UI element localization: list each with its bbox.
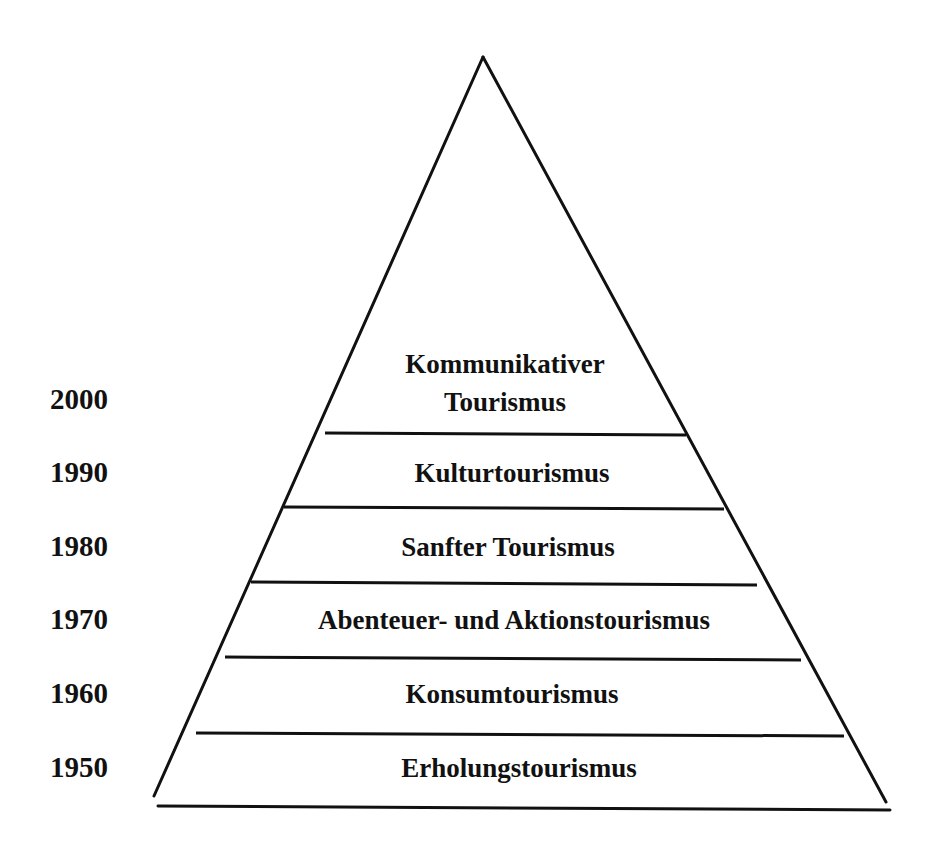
divider-1970-1960 [225, 657, 801, 660]
divider-1980-1970 [251, 582, 757, 585]
layer-label-erholungstourismus: Erholungstourismus [401, 753, 637, 783]
year-axis: 2000 1990 1980 1970 1960 1950 [50, 383, 108, 783]
tourism-pyramid-diagram: 2000 1990 1980 1970 1960 1950 Kommunikat… [0, 0, 943, 864]
layer-labels: Kommunikativer Tourismus Kulturtourismus… [318, 349, 710, 783]
layer-label-sanfter-tourismus: Sanfter Tourismus [401, 532, 614, 562]
year-label-1960: 1960 [50, 677, 108, 709]
layer-label-tourismus: Tourismus [444, 387, 566, 417]
layer-label-kulturtourismus: Kulturtourismus [414, 458, 609, 488]
divider-2000-1990 [325, 433, 686, 435]
year-label-1950: 1950 [50, 751, 108, 783]
year-label-1990: 1990 [50, 456, 108, 488]
layer-label-abenteuer-aktionstourismus: Abenteuer- und Aktionstourismus [318, 605, 710, 635]
layer-label-kommunikativer: Kommunikativer [405, 349, 605, 379]
divider-1960-1950 [196, 733, 844, 736]
year-label-1980: 1980 [50, 530, 108, 562]
year-label-1970: 1970 [50, 603, 108, 635]
pyramid-base [158, 806, 890, 810]
year-label-2000: 2000 [50, 383, 108, 415]
divider-1990-1980 [284, 507, 724, 509]
layer-label-konsumtourismus: Konsumtourismus [405, 679, 618, 709]
